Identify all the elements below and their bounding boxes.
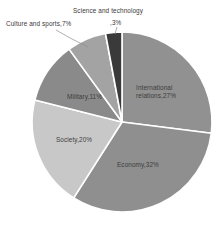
pie-label-military: Military,11%	[67, 93, 102, 100]
pie-label-science-and-technology-percent: ,3%	[110, 19, 121, 26]
pie-slice-international-relations[interactable]	[122, 32, 212, 133]
leader-line-culture-and-sports	[56, 30, 88, 47]
pie-label-economy: Economy,32%	[117, 161, 159, 168]
pie-label-culture-and-sports: Culture and sports,7%	[6, 20, 71, 27]
pie-label-international-relations-line1: International	[136, 84, 172, 91]
pie-label-international-relations-line2: relations,27%	[136, 92, 176, 99]
pie-chart-svg	[0, 0, 224, 225]
pie-label-international-relations: International relations,27%	[136, 84, 176, 101]
pie-label-society: Society,20%	[56, 136, 92, 143]
pie-label-science-and-technology-name: Science and technology	[73, 7, 143, 14]
pie-chart: Science and technology ,3% Culture and s…	[0, 0, 224, 225]
